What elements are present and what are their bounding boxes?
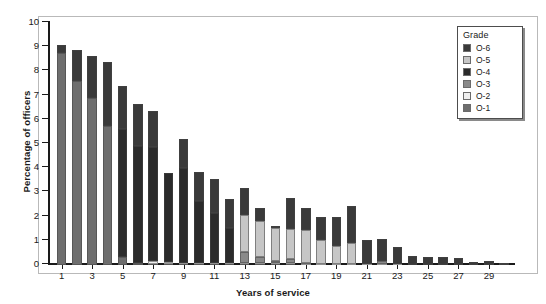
plot-area: 012345678910 1357911131517192123252729 xyxy=(48,21,515,265)
x-tick-label: 1 xyxy=(59,270,64,281)
bar-segment-o-5 xyxy=(332,246,341,264)
bar-segment-o-6 xyxy=(438,257,447,264)
x-tick-mark xyxy=(123,265,124,269)
bar-column xyxy=(393,23,402,265)
bar-segment-o-1 xyxy=(118,257,127,265)
legend-swatch-icon xyxy=(463,44,471,52)
bar-column xyxy=(225,23,234,265)
bar-column xyxy=(103,23,112,265)
bar-column xyxy=(133,23,142,265)
legend-item-o-6[interactable]: O-6 xyxy=(463,42,518,53)
legend-swatch-icon xyxy=(463,56,471,64)
legend-item-label: O-3 xyxy=(476,79,490,89)
x-tick-label: 19 xyxy=(331,270,342,281)
bar-segment-o-5 xyxy=(347,243,356,264)
legend-item-label: O-6 xyxy=(476,43,490,53)
bar-column xyxy=(57,23,66,265)
x-tick-label: 7 xyxy=(151,270,156,281)
bar-column xyxy=(87,23,96,265)
legend-swatch-icon xyxy=(463,104,471,112)
bar-segment-o-6 xyxy=(255,208,264,221)
bar-segment-o-3 xyxy=(255,257,264,263)
bar-column xyxy=(316,23,325,265)
bar-column xyxy=(271,23,280,265)
y-tick-label: 10 xyxy=(28,16,39,27)
legend-swatch-icon xyxy=(463,92,471,100)
x-tick-label: 3 xyxy=(89,270,94,281)
bar-segment-o-1 xyxy=(87,98,96,265)
bar-column xyxy=(72,23,81,265)
bar-segment-o-3 xyxy=(240,252,249,263)
legend-item-o-4[interactable]: O-4 xyxy=(463,66,518,77)
bar-segment-o-6 xyxy=(210,179,219,213)
legend-item-o-2[interactable]: O-2 xyxy=(463,90,518,101)
bar-column xyxy=(377,23,386,265)
bar-segment-o-4 xyxy=(148,147,157,261)
x-tick-label: 25 xyxy=(423,270,434,281)
x-tick-label: 11 xyxy=(209,270,219,281)
bar-segment-o-6 xyxy=(286,198,295,228)
legend-item-label: O-4 xyxy=(476,67,490,77)
bar-column xyxy=(240,23,249,265)
bar-segment-o-4 xyxy=(118,129,127,256)
bar-segment-o-5 xyxy=(301,230,310,263)
bar-segment-o-6 xyxy=(377,239,386,261)
bar-segment-o-2 xyxy=(148,261,157,264)
bar-column xyxy=(210,23,219,265)
bar-column xyxy=(332,23,341,265)
legend-title: Grade xyxy=(463,30,518,40)
bar-segment-o-6 xyxy=(194,172,203,201)
bar-segment-o-6 xyxy=(133,104,142,146)
bar-segment-o-6 xyxy=(148,111,157,147)
bar-segment-o-4 xyxy=(194,201,203,263)
legend-item-o-5[interactable]: O-5 xyxy=(463,54,518,65)
y-tick-label: 2 xyxy=(34,209,39,220)
x-tick-label: 27 xyxy=(453,270,464,281)
bar-segment-o-6 xyxy=(423,257,432,264)
bar-segment-o-3 xyxy=(377,261,386,264)
y-tick-label: 8 xyxy=(34,64,39,75)
bar-segment-o-4 xyxy=(210,213,219,264)
bar-segment-o-6 xyxy=(454,258,463,264)
y-tick-label: 4 xyxy=(34,161,39,172)
x-tick-mark xyxy=(367,265,368,269)
legend-item-label: O-2 xyxy=(476,91,490,101)
bar-column xyxy=(164,23,173,265)
bar-segment-o-1 xyxy=(57,53,66,265)
chart-root: Percentage of officers Years of service … xyxy=(0,0,546,304)
bar-segment-o-4 xyxy=(225,228,234,263)
x-tick-mark xyxy=(336,265,337,269)
x-tick-mark xyxy=(245,265,246,269)
x-tick-mark xyxy=(275,265,276,269)
x-tick-mark xyxy=(397,265,398,269)
bar-segment-o-3 xyxy=(286,259,295,263)
bar-segment-o-6 xyxy=(179,139,188,168)
x-tick-mark xyxy=(214,265,215,269)
bar-segment-o-6 xyxy=(332,217,341,246)
bar-segment-o-5 xyxy=(316,240,325,264)
x-tick-label: 15 xyxy=(270,270,281,281)
bar-segment-o-3 xyxy=(271,261,280,263)
x-tick-label: 29 xyxy=(484,270,495,281)
x-tick-mark xyxy=(489,265,490,269)
bar-segment-o-6 xyxy=(316,217,325,240)
y-tick-label: 9 xyxy=(34,40,39,51)
x-tick-label: 5 xyxy=(120,270,125,281)
bar-column xyxy=(408,23,417,265)
bar-column xyxy=(301,23,310,265)
bar-column xyxy=(286,23,295,265)
x-tick-mark xyxy=(153,265,154,269)
y-tick-label: 0 xyxy=(34,258,39,269)
legend-item-o-3[interactable]: O-3 xyxy=(463,78,518,89)
bar-column xyxy=(347,23,356,265)
bar-segment-o-4 xyxy=(164,173,173,263)
bar-segment-o-6 xyxy=(362,240,371,264)
bar-segment-o-6 xyxy=(393,247,402,264)
legend-item-o-1[interactable]: O-1 xyxy=(463,102,518,113)
legend-item-label: O-5 xyxy=(476,55,490,65)
bar-segment-o-5 xyxy=(271,228,280,261)
bar-segment-o-4 xyxy=(179,168,188,262)
bar-segment-o-6 xyxy=(301,208,310,230)
bar-segment-o-6 xyxy=(484,261,493,264)
legend-swatch-icon xyxy=(463,80,471,88)
